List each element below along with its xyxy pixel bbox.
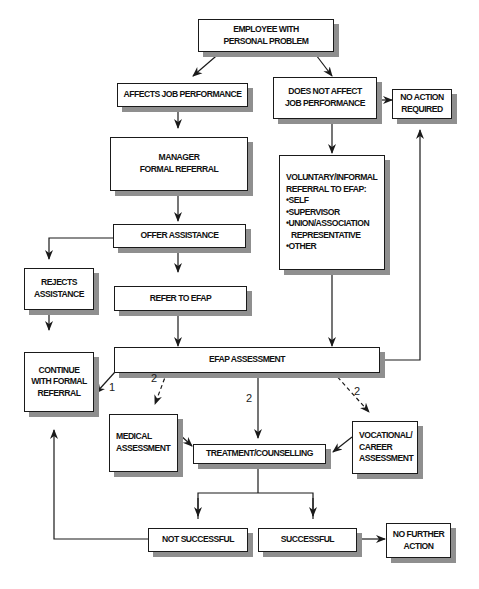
node-refer-to-efap: REFER TO EFAP: [114, 286, 247, 311]
node-successful: SUCCESSFUL: [258, 528, 357, 552]
node-efap-assessment: EFAP ASSESSMENT: [114, 347, 380, 373]
node-affects-job-performance: AFFECTS JOB PERFORMANCE: [117, 83, 248, 107]
node-not-successful: NOT SUCCESSFUL: [148, 528, 248, 552]
node-does-not-affect-job-performance: DOES NOT AFFECTJOB PERFORMANCE: [273, 77, 377, 119]
node-voluntary-informal-referral: VOLUNTARY/INFORMAL REFERRAL TO EFAP: •SE…: [279, 155, 385, 270]
node-employee-with-personal-problem: EMPLOYEE WITHPERSONAL PROBLEM: [198, 19, 334, 52]
edge-label-2-treatment: 2: [246, 392, 252, 404]
node-treatment-counselling: TREATMENT/COUNSELLING: [193, 444, 326, 464]
node-continue-with-formal-referral: CONTINUEWITH FORMALREFERRAL: [24, 352, 94, 412]
node-medical-assessment: MEDICALASSESSMENT: [109, 414, 178, 472]
node-vocational-career-assessment: VOCATIONAL/CAREERASSESSMENT: [352, 421, 418, 474]
edge-label-2-vocational: 2: [354, 385, 360, 397]
node-offer-assistance: OFFER ASSISTANCE: [113, 224, 246, 248]
node-manager-formal-referral: MANAGERFORMAL REFERRAL: [110, 137, 248, 191]
node-no-further-action: NO FURTHERACTION: [386, 523, 451, 558]
edge-label-2-medical: 2: [151, 372, 157, 384]
edge-label-1: 1: [109, 381, 115, 393]
node-no-action-required: NO ACTIONREQUIRED: [392, 89, 452, 119]
node-rejects-assistance: REJECTSASSISTANCE: [24, 268, 94, 310]
